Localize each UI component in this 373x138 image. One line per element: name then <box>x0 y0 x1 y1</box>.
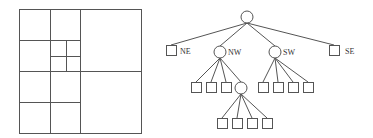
quadtree-figure: NE NW SW SE <box>0 0 373 138</box>
sub-leaf-node-4 <box>263 119 273 129</box>
se-leaf-node <box>330 46 340 56</box>
sub-leaf-node-2 <box>233 119 243 129</box>
sub-leaf-node-1 <box>218 119 228 129</box>
quadtree-grid <box>20 10 142 134</box>
edge-nw-child1 <box>196 58 220 82</box>
label-sw: SW <box>283 48 295 57</box>
nw-sub-internal-node <box>235 82 247 94</box>
label-ne: NE <box>180 47 191 56</box>
nw-leaf-node-1 <box>192 83 202 93</box>
root-node <box>241 11 253 23</box>
ne-leaf-node <box>167 46 177 56</box>
sw-leaf-node-3 <box>289 83 299 93</box>
sw-leaf-node-1 <box>259 83 269 93</box>
edge-sub-child4 <box>241 94 267 118</box>
tree-edges <box>171 23 334 118</box>
edge-root-ne <box>171 23 247 45</box>
sw-leaf-node-2 <box>274 83 284 93</box>
edge-sw-child1 <box>263 58 275 82</box>
tree-nodes <box>167 11 340 129</box>
sub-leaf-node-3 <box>248 119 258 129</box>
edge-sub-child3 <box>241 94 252 118</box>
label-se: SE <box>345 47 354 56</box>
nw-leaf-node-2 <box>207 83 217 93</box>
sw-internal-node <box>269 46 281 58</box>
nw-leaf-node-3 <box>222 83 232 93</box>
edge-nw-child2 <box>211 58 220 82</box>
label-nw: NW <box>228 48 242 57</box>
tree-labels: NE NW SW SE <box>180 47 354 57</box>
edge-sw-child4 <box>275 58 308 82</box>
sw-leaf-node-4 <box>304 83 314 93</box>
edge-sub-child1 <box>222 94 241 118</box>
nw-internal-node <box>214 46 226 58</box>
